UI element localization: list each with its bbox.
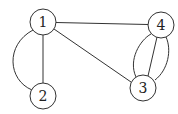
node-1: 1: [30, 9, 56, 35]
edge-3-4: [148, 37, 157, 76]
node-4-label: 4: [157, 17, 166, 33]
node-1-label: 1: [39, 14, 48, 30]
edge-1-3: [54, 29, 131, 82]
edge-3-4-arc-right: [155, 37, 169, 80]
node-2-label: 2: [39, 88, 48, 104]
edge-1-2-arc: [13, 30, 33, 90]
node-3-label: 3: [139, 80, 148, 96]
graph-diagram: 1 2 3 4: [0, 0, 178, 114]
node-2: 2: [30, 83, 56, 109]
edge-3-4-arc-left: [133, 34, 151, 77]
node-4: 4: [148, 12, 174, 38]
node-3: 3: [130, 75, 156, 101]
edge-1-4: [56, 23, 148, 25]
